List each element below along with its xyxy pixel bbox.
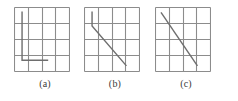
path-b-vertical-diagonal (92, 12, 126, 66)
panel-b-svg (84, 7, 140, 72)
panel-c-svg (155, 7, 211, 72)
caption-b: (b) (80, 78, 150, 90)
panel-b (84, 7, 140, 72)
caption-a: (a) (10, 78, 80, 90)
panel-c (155, 7, 211, 72)
panel-a (14, 7, 70, 72)
caption-c: (c) (151, 78, 221, 90)
panel-a-svg (14, 7, 70, 72)
path-a-staircase (22, 12, 48, 61)
figure-container: (a) (b) (c) (0, 0, 238, 101)
